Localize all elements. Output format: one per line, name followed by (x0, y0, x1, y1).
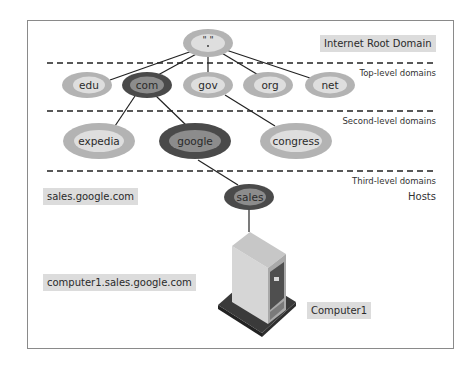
tld-node-net[interactable]: net (305, 72, 355, 98)
tld-node-com[interactable]: com (122, 72, 172, 98)
sld-node-expedia[interactable]: expedia (63, 123, 135, 159)
internet-root-domain-tag: Internet Root Domain (320, 35, 436, 52)
svg-text:sales: sales (237, 191, 264, 203)
root-node[interactable]: " " (183, 29, 233, 57)
svg-text:net: net (321, 79, 338, 91)
svg-text:google: google (177, 135, 213, 147)
sld-node-google[interactable]: google (159, 123, 231, 159)
svg-text:gov: gov (198, 79, 217, 91)
svg-text:org: org (261, 79, 278, 91)
label-third-level-domains: Third-level domains (351, 176, 436, 186)
root-node-label: " " (202, 35, 213, 45)
tld-node-org[interactable]: org (243, 72, 293, 98)
svg-text:expedia: expedia (78, 135, 120, 147)
fqdn-tag-computer1: computer1.sales.google.com (43, 274, 196, 291)
host-label-computer1: Computer1 (307, 302, 371, 319)
fqdn-tag-sales: sales.google.com (43, 188, 138, 205)
svg-text:com: com (136, 79, 158, 91)
label-second-level-domains: Second-level domains (342, 116, 436, 126)
label-top-level-domains: Top-level domains (358, 68, 436, 78)
root-dot-icon (207, 45, 209, 47)
tld-node-gov[interactable]: gov (183, 72, 233, 98)
tld-node-edu[interactable]: edu (62, 72, 112, 98)
server-tower-icon[interactable] (218, 232, 296, 337)
svg-text:edu: edu (79, 79, 99, 91)
label-hosts: Hosts (408, 191, 436, 202)
third-level-node-sales[interactable]: sales (224, 184, 274, 210)
sld-node-congress[interactable]: congress (260, 123, 332, 159)
drive-bay-icon (274, 277, 279, 281)
svg-text:congress: congress (272, 135, 319, 147)
dns-hierarchy-diagram: " " edu com gov org net expedia google (0, 0, 475, 365)
